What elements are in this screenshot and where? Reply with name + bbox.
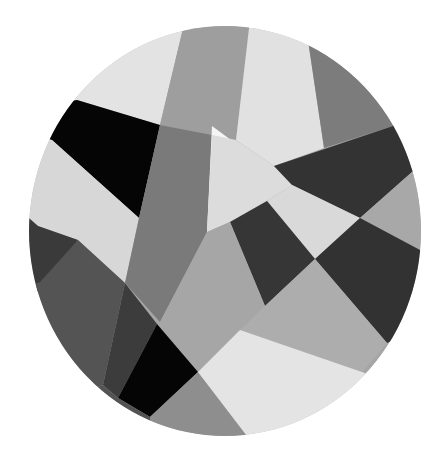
geometric-circle-artwork [0, 0, 447, 458]
